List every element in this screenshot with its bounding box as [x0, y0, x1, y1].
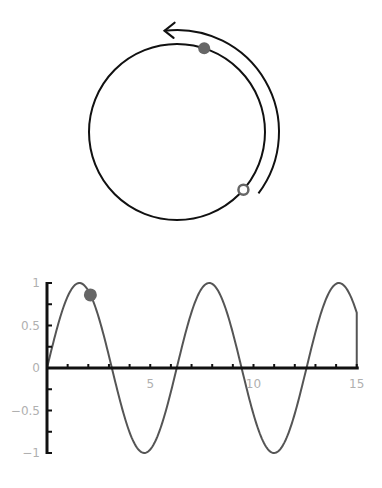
y-tick-label: −0.5 [11, 404, 40, 418]
current-point [198, 42, 210, 54]
x-tick-labels: 51015 [146, 377, 364, 391]
y-tick-label: 0 [32, 361, 40, 375]
current-value-marker [84, 288, 97, 301]
y-tick-label: −1 [22, 446, 40, 460]
y-tick-label: 1 [32, 276, 40, 290]
x-tick-label: 10 [246, 377, 261, 391]
y-tick-labels: 10.50−0.5−1 [11, 276, 40, 460]
figure: 51015 10.50−0.5−1 [0, 0, 382, 488]
unit-circle-diagram [89, 23, 279, 220]
sine-chart: 51015 10.50−0.5−1 [11, 276, 365, 460]
x-tick-label: 15 [349, 377, 364, 391]
y-tick-label: 0.5 [21, 319, 40, 333]
start-point [238, 185, 248, 195]
x-tick-label: 5 [146, 377, 154, 391]
